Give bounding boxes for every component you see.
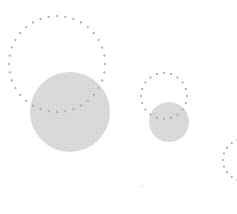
ring-dot bbox=[9, 55, 11, 57]
decorative-illustration bbox=[0, 0, 237, 214]
ring-dot bbox=[93, 94, 95, 96]
ring-dot bbox=[19, 94, 21, 96]
ring-dot bbox=[141, 88, 143, 90]
ring-dot bbox=[176, 76, 178, 78]
ring-dot bbox=[39, 108, 41, 110]
ring-dot bbox=[156, 117, 158, 119]
ring-dot bbox=[64, 110, 66, 112]
ring-dot bbox=[236, 139, 237, 141]
ring-dot bbox=[231, 142, 233, 144]
ring-dot bbox=[48, 110, 50, 112]
ring-dot bbox=[87, 26, 89, 28]
ring-dot bbox=[56, 111, 58, 113]
ring-dot bbox=[149, 76, 151, 78]
ring-dot bbox=[56, 15, 58, 17]
ring-dot bbox=[226, 147, 228, 149]
ring-dot bbox=[163, 118, 165, 120]
ring-dot bbox=[226, 171, 228, 173]
ring-dot bbox=[72, 18, 74, 20]
ring-dot bbox=[186, 95, 188, 97]
ring-dot bbox=[93, 32, 95, 34]
ring-dot bbox=[19, 32, 21, 34]
ring-dot bbox=[144, 108, 146, 110]
ring-dot bbox=[149, 114, 151, 116]
ring-dot bbox=[182, 108, 184, 110]
ring-dot bbox=[176, 114, 178, 116]
ring-dot bbox=[144, 81, 146, 83]
ring-dot bbox=[222, 159, 224, 161]
ring-dot bbox=[48, 16, 50, 18]
ring-dot bbox=[185, 102, 187, 104]
ring-dot bbox=[236, 179, 237, 181]
ring-dot bbox=[72, 108, 74, 110]
speck-dot bbox=[141, 185, 143, 187]
ring-dot bbox=[97, 87, 99, 89]
ring-dot bbox=[14, 87, 16, 89]
ring-dot bbox=[163, 72, 165, 74]
ring-dot bbox=[97, 39, 99, 41]
ring-dot bbox=[223, 165, 225, 167]
ring-dot bbox=[140, 95, 142, 97]
ring-dot bbox=[170, 117, 172, 119]
ring-dot bbox=[80, 104, 82, 106]
ring-dot bbox=[223, 152, 225, 154]
ring-dot bbox=[11, 46, 13, 48]
ring-dot bbox=[182, 81, 184, 83]
ring-dot bbox=[103, 71, 105, 73]
solid-circle-small bbox=[149, 102, 189, 142]
ring-dot bbox=[64, 16, 66, 18]
ring-dot bbox=[25, 26, 27, 28]
ring-dot bbox=[87, 100, 89, 102]
ring-dot bbox=[32, 21, 34, 23]
ring-dot bbox=[170, 73, 172, 75]
ring-dot bbox=[104, 63, 106, 65]
ring-dot bbox=[101, 46, 103, 48]
ring-dot bbox=[14, 39, 16, 41]
dotted-ring-partial bbox=[222, 138, 237, 182]
ring-dot bbox=[185, 88, 187, 90]
ring-dot bbox=[25, 100, 27, 102]
abstract-circles-graphic bbox=[0, 0, 237, 214]
ring-dot bbox=[101, 79, 103, 81]
ring-dot bbox=[32, 104, 34, 106]
solid-circle-large bbox=[30, 72, 110, 152]
ring-dot bbox=[80, 21, 82, 23]
ring-dot bbox=[11, 79, 13, 81]
ring-dot bbox=[9, 71, 11, 73]
ring-dot bbox=[231, 176, 233, 178]
ring-dot bbox=[39, 18, 41, 20]
ring-dot bbox=[103, 55, 105, 57]
ring-dot bbox=[156, 73, 158, 75]
ring-dot bbox=[8, 63, 10, 65]
ring-dot bbox=[141, 102, 143, 104]
